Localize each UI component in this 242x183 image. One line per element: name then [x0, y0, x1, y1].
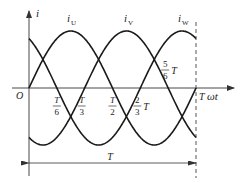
- svg-text:i: i: [124, 12, 127, 24]
- tick-denominator: 2: [110, 107, 115, 117]
- svg-text:i: i: [67, 12, 70, 24]
- tick-label-t1_3: T3: [78, 95, 86, 117]
- svg-text:U: U: [71, 19, 76, 27]
- tick-suffix: T: [143, 101, 150, 112]
- tick-numerator: T: [54, 95, 60, 105]
- tick-label-t5_6: 56T: [161, 59, 178, 81]
- tick-denominator: 6: [55, 107, 60, 117]
- tick-numerator: T: [79, 95, 85, 105]
- tick-label-t2_3: 23T: [133, 95, 150, 117]
- svg-text:i: i: [178, 12, 181, 24]
- tick-denominator: 3: [79, 107, 84, 117]
- tick-denominator: 6: [163, 71, 168, 81]
- tick-numerator: T: [110, 95, 116, 105]
- tick-label-t1_2: T2: [109, 95, 117, 117]
- x-axis-label: ωt: [207, 90, 219, 102]
- period-dimension-label: T: [107, 151, 114, 162]
- series-label-iU: i U: [67, 12, 76, 27]
- tick-denominator: 3: [135, 107, 140, 117]
- svg-text:W: W: [182, 19, 189, 27]
- y-axis-label: i: [36, 7, 39, 19]
- tick-numerator: 2: [135, 95, 140, 105]
- series-label-iW: i W: [178, 12, 189, 27]
- tick-numerator: 5: [163, 59, 168, 69]
- origin-label: O: [16, 90, 23, 101]
- three-phase-waveform-diagram: i ωt O i U i V i W T6T3T223T56T T T: [0, 0, 242, 183]
- tick-suffix: T: [171, 65, 178, 76]
- series-label-iV: i V: [124, 12, 133, 27]
- tick-label-t1_6: T6: [53, 95, 61, 117]
- period-end-label: T: [199, 91, 206, 102]
- svg-text:V: V: [128, 19, 133, 27]
